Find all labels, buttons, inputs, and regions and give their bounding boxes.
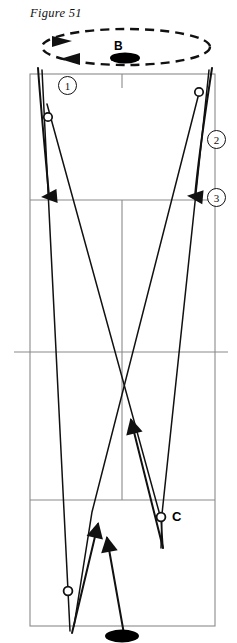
trajectory-bottom-left-upward bbox=[72, 524, 98, 633]
trajectory-right-straight-drop bbox=[161, 70, 209, 548]
player-b-position-marker bbox=[110, 52, 140, 63]
trajectory-bottom-player-upward bbox=[107, 538, 124, 634]
trajectory-left-straight-drop bbox=[42, 70, 70, 631]
step-number-3: 3 bbox=[207, 188, 226, 207]
open-circle-left-upper-marker bbox=[44, 113, 52, 121]
movement-arrow-lower-icon bbox=[60, 53, 80, 65]
player-b-label: B bbox=[114, 39, 123, 53]
open-circle-bottom-left-marker bbox=[64, 587, 73, 596]
player-bottom-position-marker bbox=[105, 630, 139, 643]
movement-arrow-upper-icon bbox=[52, 36, 72, 47]
court-diagram-svg bbox=[0, 0, 237, 643]
step-number-2: 2 bbox=[207, 130, 226, 149]
shot-trajectories bbox=[38, 68, 212, 634]
open-circle-right-upper-marker bbox=[195, 88, 203, 96]
step-number-1: 1 bbox=[58, 76, 77, 95]
figure-container: Figure 51 bbox=[0, 0, 237, 643]
trajectory-midcourt-upward bbox=[131, 420, 163, 548]
open-circle-c-marker bbox=[157, 513, 166, 522]
player-c-label: C bbox=[172, 509, 181, 524]
